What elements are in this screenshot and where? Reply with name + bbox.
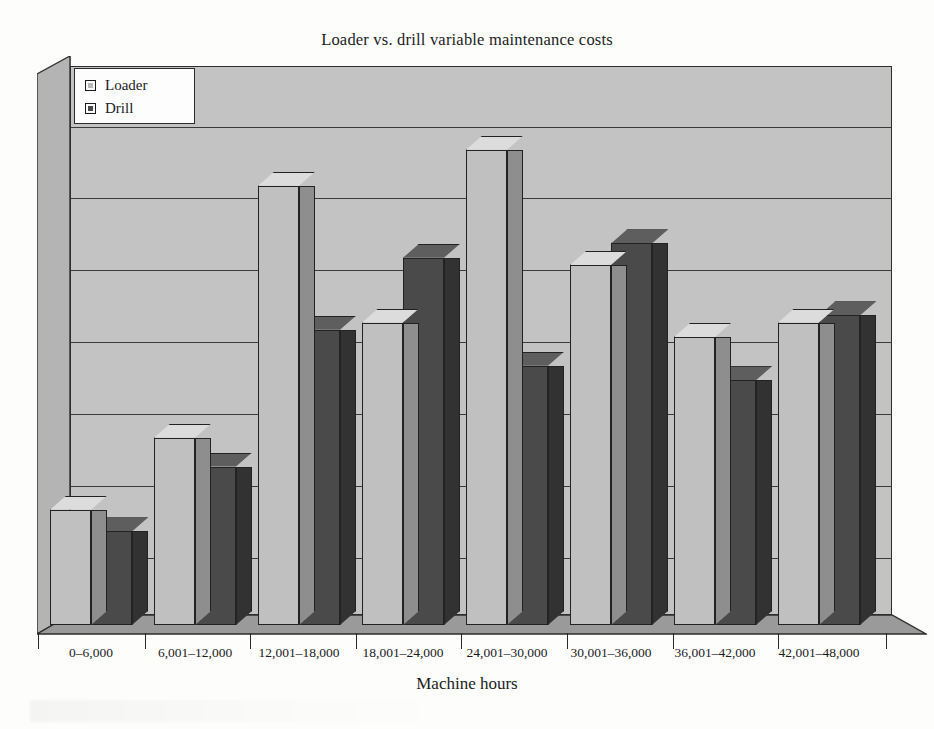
bar-loader-4 [362, 323, 403, 625]
axis-tick [356, 633, 357, 649]
category-label-1: 0–6,000 [69, 645, 113, 661]
axis-tick [567, 633, 568, 649]
category-label-5: 24,001–30,000 [467, 645, 548, 661]
bar-loader-2 [154, 438, 195, 625]
bars-layer [0, 0, 934, 700]
bar-loader-3 [258, 186, 299, 625]
bar-loader-5 [466, 150, 507, 625]
bar-front-face [154, 438, 195, 625]
bar-top-face [258, 172, 315, 187]
axis-tick [778, 633, 779, 649]
bar-side-face [756, 380, 772, 625]
bar-side-face [340, 330, 356, 625]
bar-side-face [236, 467, 252, 625]
axis-tick [461, 633, 462, 649]
bar-loader-8 [778, 323, 819, 625]
bar-top-face [611, 229, 668, 244]
category-label-3: 12,001–18,000 [259, 645, 340, 661]
bar-side-face [91, 510, 107, 625]
bar-top-face [403, 244, 460, 259]
bar-front-face [570, 265, 611, 625]
scan-artifact [30, 700, 450, 722]
bar-side-face [652, 243, 668, 625]
bar-side-face [444, 258, 460, 625]
axis-tick [250, 633, 251, 649]
bar-side-face [299, 186, 315, 625]
axis-tick [886, 633, 887, 649]
bar-side-face [611, 265, 627, 625]
bar-top-face [674, 323, 731, 338]
bar-front-face [362, 323, 403, 625]
bar-loader-1 [50, 510, 91, 625]
axis-tick [38, 633, 39, 649]
bar-front-face [258, 186, 299, 625]
bar-side-face [548, 366, 564, 625]
bar-side-face [403, 323, 419, 625]
bar-side-face [507, 150, 523, 625]
axis-title-x: Machine hours [0, 674, 934, 694]
category-label-8: 42,001–48,000 [779, 645, 860, 661]
bar-side-face [819, 323, 835, 625]
bar-loader-6 [570, 265, 611, 625]
bar-front-face [778, 323, 819, 625]
bar-top-face [466, 136, 523, 151]
bar-front-face [674, 337, 715, 625]
bar-front-face [466, 150, 507, 625]
axis-tick [145, 633, 146, 649]
bar-side-face [132, 531, 148, 625]
figure-page: Loader vs. drill variable maintenance co… [0, 0, 934, 729]
bar-side-face [195, 438, 211, 625]
bar-loader-7 [674, 337, 715, 625]
category-label-7: 36,001–42,000 [675, 645, 756, 661]
bar-front-face [50, 510, 91, 625]
plot-area: Loader Drill 0–6,0006,001–12,00012,001–1… [0, 0, 934, 700]
bar-top-face [154, 424, 211, 439]
axis-tick [673, 633, 674, 649]
category-label-2: 6,001–12,000 [158, 645, 232, 661]
bar-side-face [860, 315, 876, 625]
bar-top-face [50, 496, 107, 511]
bar-side-face [715, 337, 731, 625]
category-label-6: 30,001–36,000 [571, 645, 652, 661]
category-label-4: 18,001–24,000 [363, 645, 444, 661]
